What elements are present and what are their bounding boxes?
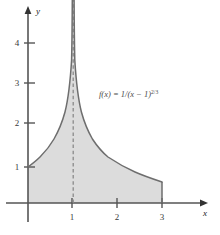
x-axis-label: x bbox=[202, 208, 207, 218]
y-tick-label-2: 2 bbox=[15, 118, 20, 128]
formula-body: f(x) = 1/(x − 1) bbox=[99, 89, 151, 99]
x-axis-arrowhead bbox=[200, 200, 208, 207]
y-tick-label-1: 1 bbox=[15, 162, 20, 172]
x-tick-label-3: 3 bbox=[160, 212, 165, 222]
y-tick-label-4: 4 bbox=[15, 38, 20, 48]
formula-exponent: 2/3 bbox=[151, 89, 158, 95]
y-axis-arrowhead bbox=[25, 6, 32, 14]
function-formula-label: f(x) = 1/(x − 1)2/3 bbox=[99, 89, 158, 99]
x-tick-label-1: 1 bbox=[70, 212, 75, 222]
y-tick-label-3: 3 bbox=[15, 78, 20, 88]
function-graph-figure: 4 3 2 1 1 2 3 y x f(x) = 1/(x − 1)2/3 bbox=[0, 0, 220, 235]
shaded-area-region bbox=[28, 0, 162, 203]
x-tick-label-2: 2 bbox=[115, 212, 120, 222]
y-axis-label: y bbox=[35, 6, 40, 16]
